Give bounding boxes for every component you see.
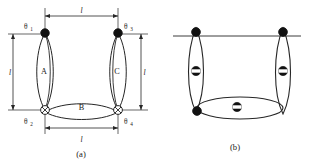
loop-C: C (110, 33, 127, 110)
loop-A: A (37, 33, 54, 110)
joint-theta-3: θ 3 (114, 22, 134, 37)
dimension-bottom-label: l (80, 135, 82, 144)
loop-A-label: A (41, 67, 47, 76)
joint-theta-1-symbol: θ (24, 22, 28, 31)
dimension-left: l (8, 34, 40, 110)
joint-theta-2-symbol: θ (24, 117, 28, 126)
joint-theta-1: θ 1 (24, 22, 49, 37)
dimension-top-label: l (80, 6, 82, 15)
filled-circle-icon-top-right (279, 28, 288, 37)
banded-circle-icon-bottom (232, 102, 241, 111)
figure-root: l l l (0, 0, 309, 163)
joint-theta-2: θ 2 (24, 106, 49, 127)
joint-theta-3-subscript: 3 (130, 26, 133, 32)
filled-circle-icon (41, 29, 50, 38)
panel-a-caption: (a) (76, 149, 86, 159)
filled-circle-icon-bottom-left (193, 107, 202, 116)
joint-theta-3-symbol: θ (124, 22, 128, 31)
dimension-left-label: l (9, 68, 11, 77)
banded-circle-icon-left (191, 66, 200, 75)
figure-panel-a: l l l (0, 0, 155, 163)
joint-theta-4: θ 4 (114, 106, 134, 127)
banded-circle-icon-right (278, 66, 287, 75)
panel-b-caption: (b) (230, 142, 240, 152)
panel-a-drawing: l l l (0, 0, 155, 163)
loop-B-label: B (79, 103, 85, 112)
figure-panel-b: (b) (155, 0, 309, 163)
filled-circle-icon-top-left (192, 28, 201, 37)
loop-C-label: C (114, 67, 120, 76)
panel-b-drawing: (b) (155, 0, 309, 163)
loop-B: B (45, 103, 118, 120)
joint-theta-1-subscript: 1 (30, 26, 33, 32)
joint-theta-4-symbol: θ (124, 117, 128, 126)
joint-theta-2-subscript: 2 (30, 121, 33, 127)
joint-theta-4-subscript: 4 (130, 121, 133, 127)
dimension-top: l (45, 6, 118, 30)
filled-circle-icon (114, 29, 123, 38)
dimension-right-label: l (143, 68, 145, 77)
